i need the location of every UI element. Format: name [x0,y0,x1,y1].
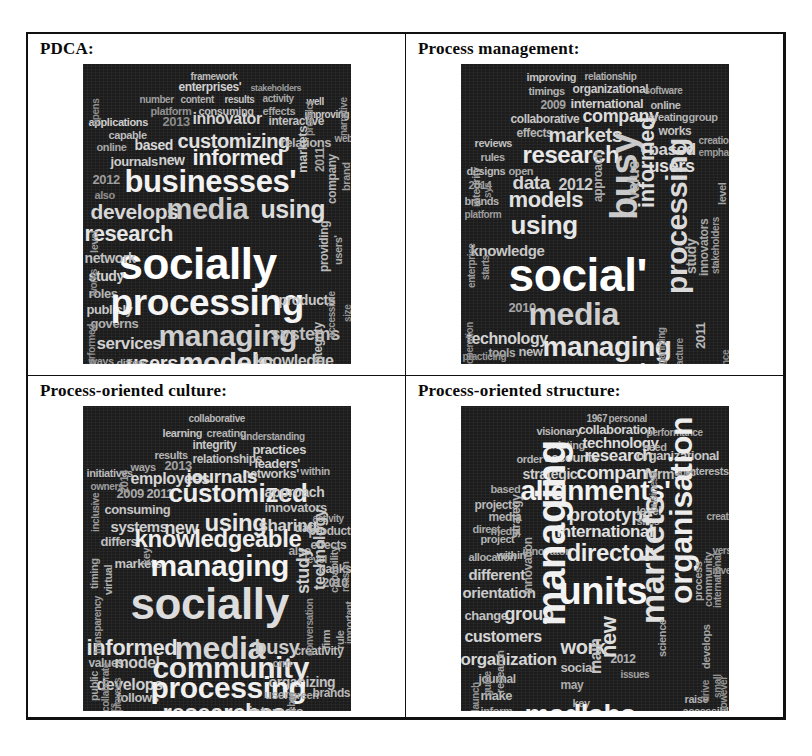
cloud-word: group [689,112,718,122]
cloud-word: new [519,346,543,358]
cloud-word: transparency [93,596,102,654]
cloud-word: understanding [241,432,305,441]
cloud-word: organization [461,652,557,668]
cloud-word: create [707,512,729,521]
cloud-word: guide [483,671,492,696]
cloud-word: small [713,674,722,698]
cloud-word: number [140,95,174,104]
cloud-word: knowledgeable [135,528,302,550]
cloud-word: based [491,484,521,494]
cloud-word: enterprises' [179,82,242,93]
cell-label-pdca: PDCA: [40,39,94,59]
cloud-word: stakeholders [109,703,118,711]
cloud-word: starts [481,255,490,280]
cloud-word: using [511,214,578,238]
cloud-word: level [717,183,727,205]
cloud-word: media [167,196,249,223]
cloud-word: technology [313,509,328,590]
cloud-word: develops [701,625,711,670]
cloud-word: conversation [305,599,314,656]
cloud-word: 2011 [695,322,707,349]
cloud-word: science [657,619,667,657]
cloud-word: managing [543,334,672,360]
cell-process-oriented-culture: Process-oriented culture: collaborativel… [27,375,406,718]
cloud-word: creation [699,136,729,145]
cloud-word: drive [701,680,710,702]
cloud-word: social' [509,254,648,296]
cloud-word: 2014 [119,470,129,493]
cloud-word: customers [465,630,542,645]
cloud-word: brand [341,162,351,191]
cloud-word: value [627,161,642,200]
cloud-word: capability [329,546,339,593]
cloud-word: opens [91,99,100,126]
cloud-word: effects [517,128,553,139]
cloud-word: integrity [193,440,237,451]
cloud-word: integrity [313,322,324,364]
cell-process-management: Process management: improvingrelationshi… [405,33,784,376]
cloud-word: 2012 [93,174,120,186]
cloud-word: visionary [537,426,582,436]
cloud-word: inform [481,706,513,711]
cloud-word: reviews [475,138,513,148]
cloud-word: stakeholders [711,217,720,274]
cloud-word: media [529,300,620,329]
cloud-word: develops [91,202,179,221]
cloud-word: public [89,671,99,701]
cloud-word: launch [471,682,480,711]
cloud-word: level [89,231,99,253]
cloud-word: services' [97,336,166,352]
cloud-word: activity [263,94,294,103]
word-cloud-process-management: improvingrelationshiptimingsorganization… [461,64,729,364]
cloud-word: strategy [511,495,522,539]
cloud-word: improving [527,72,577,82]
cloud-word: organizational [573,84,649,95]
cloud-word: reason [341,562,350,592]
cloud-word: providing [319,221,330,272]
cloud-word: main [589,638,604,674]
cloud-word: processing [111,286,304,320]
cloud-word: accessible [327,291,336,338]
cloud-word: based [135,139,173,152]
cloud-word: brands [313,688,351,699]
cloud-word: innovation [523,537,534,594]
cloud-word: innovator [193,112,262,127]
cloud-word: managing [533,440,570,626]
cloud-word: online [97,142,127,152]
cloud-word: sys [483,183,492,199]
cloud-word: innovators [699,219,710,276]
cloud-word: platform [465,210,502,219]
cloud-word: may [561,680,584,691]
cloud-word: works [659,126,692,137]
cloud-word: rules [481,152,505,162]
cloud-word: study [295,548,312,594]
cloud-word: results [225,95,255,104]
cloud-word: collaborative [189,414,246,423]
cloud-word: key [141,548,151,565]
word-cloud-process-oriented-structure: 1967personalvisionarycollaborationperfor… [461,406,729,711]
cell-pdca: PDCA: frameworkenterprises'stakeholdersn… [27,33,406,376]
cloud-word: research [495,650,505,693]
cloud-word: also [95,190,115,200]
cloud-word: integrity [471,167,481,207]
cloud-word: managing [151,552,289,580]
cloud-word: enterprise [467,244,476,288]
cloud-word: stakeholders [251,84,302,92]
cloud-word: consuming [105,504,171,516]
cloud-word: product [305,102,314,136]
cloud-word: inclusive [91,493,100,532]
cloud-word: approach [593,151,604,202]
cloud-word: international [713,553,722,608]
cell-label-process-management: Process management: [418,39,580,59]
cloud-word: software [645,86,683,95]
cloud-word: learning [163,428,203,438]
cloud-word: relationship [585,72,637,81]
cell-label-process-oriented-structure: Process-oriented structure: [418,381,621,401]
cloud-word: issues [621,670,650,679]
cloud-word: study [685,239,698,274]
cloud-word: operation [465,322,474,364]
cloud-word: timings [529,86,565,96]
cloud-word: relationships [193,454,262,465]
cell-process-oriented-structure: Process-oriented structure: 1967personal… [405,375,784,718]
cloud-word: 2009 [541,100,566,111]
